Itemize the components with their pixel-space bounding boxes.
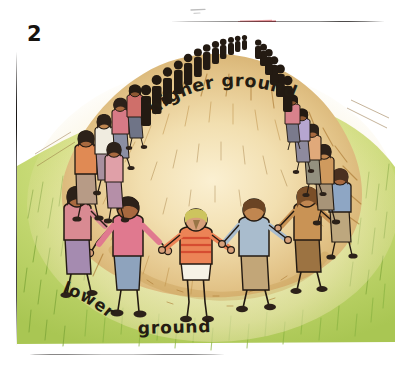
grey-dash-mark [191, 9, 205, 13]
illustration-panel: 2 higher ground lower ground [0, 0, 410, 372]
panel-number: 2 [27, 24, 42, 45]
scene-artwork [17, 22, 395, 354]
